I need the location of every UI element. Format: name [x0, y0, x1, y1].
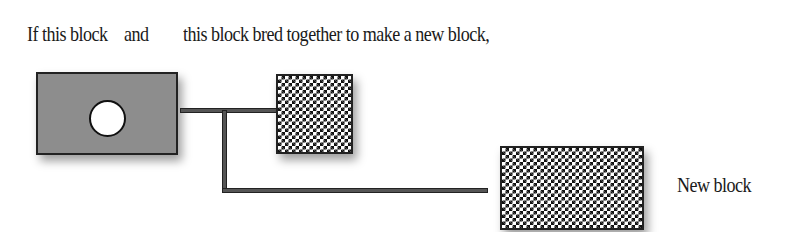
parent-block-b	[276, 74, 353, 154]
parent-block-a	[36, 72, 178, 155]
caption-if-this-block: If this block	[27, 24, 108, 45]
connector-horizontal-bottom	[222, 188, 488, 193]
child-block	[500, 146, 644, 230]
connector-vertical	[222, 110, 227, 192]
connector-horizontal-top	[180, 108, 277, 113]
caption-rest: this block bred together to make a new b…	[183, 24, 489, 45]
caption-and: and	[124, 24, 149, 45]
new-block-label: New block	[677, 175, 751, 196]
white-circle-icon	[89, 100, 126, 137]
